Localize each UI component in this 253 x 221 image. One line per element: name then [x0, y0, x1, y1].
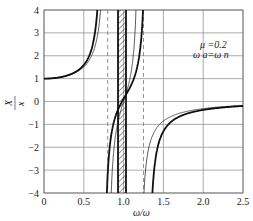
annotation-omega: ω a=ω n [193, 49, 229, 60]
svg-text:4: 4 [34, 5, 39, 16]
svg-text:0.5: 0.5 [78, 196, 91, 207]
x-axis-label: ω/ω [133, 207, 150, 218]
svg-text:1.5: 1.5 [157, 196, 170, 207]
svg-text:−3: −3 [28, 165, 39, 176]
tick-labels: 43210−1−2−3−400.51.01.52.02.5 [28, 5, 249, 208]
svg-text:−4: −4 [28, 188, 39, 199]
svg-text:2.0: 2.0 [197, 196, 210, 207]
svg-text:2.5: 2.5 [237, 196, 250, 207]
svg-text:x: x [15, 101, 26, 107]
svg-text:−2: −2 [28, 142, 39, 153]
y-axis-label: X x [3, 96, 26, 110]
svg-text:3: 3 [34, 27, 39, 38]
svg-text:0: 0 [42, 196, 47, 207]
svg-text:1.0: 1.0 [117, 196, 130, 207]
svg-text:X: X [3, 99, 14, 107]
svg-text:1: 1 [34, 73, 39, 84]
response-chart: 43210−1−2−3−400.51.01.52.02.5 μ =0.2 ω a… [0, 0, 253, 221]
svg-text:−1: −1 [28, 119, 39, 130]
svg-text:2: 2 [34, 50, 39, 61]
svg-text:0: 0 [34, 96, 39, 107]
